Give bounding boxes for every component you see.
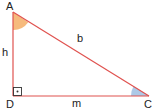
right-angle-dot (17, 91, 19, 93)
side-label-h: h (2, 46, 8, 58)
side-b (13, 12, 149, 96)
side-label-m: m (72, 97, 81, 109)
vertex-label-d: D (6, 98, 14, 110)
angle-mark-a (13, 12, 28, 30)
vertex-label-c: C (144, 98, 152, 110)
vertex-label-a: A (6, 0, 14, 12)
triangle-diagram: A D C h b m (0, 0, 159, 111)
side-label-b: b (77, 32, 83, 44)
